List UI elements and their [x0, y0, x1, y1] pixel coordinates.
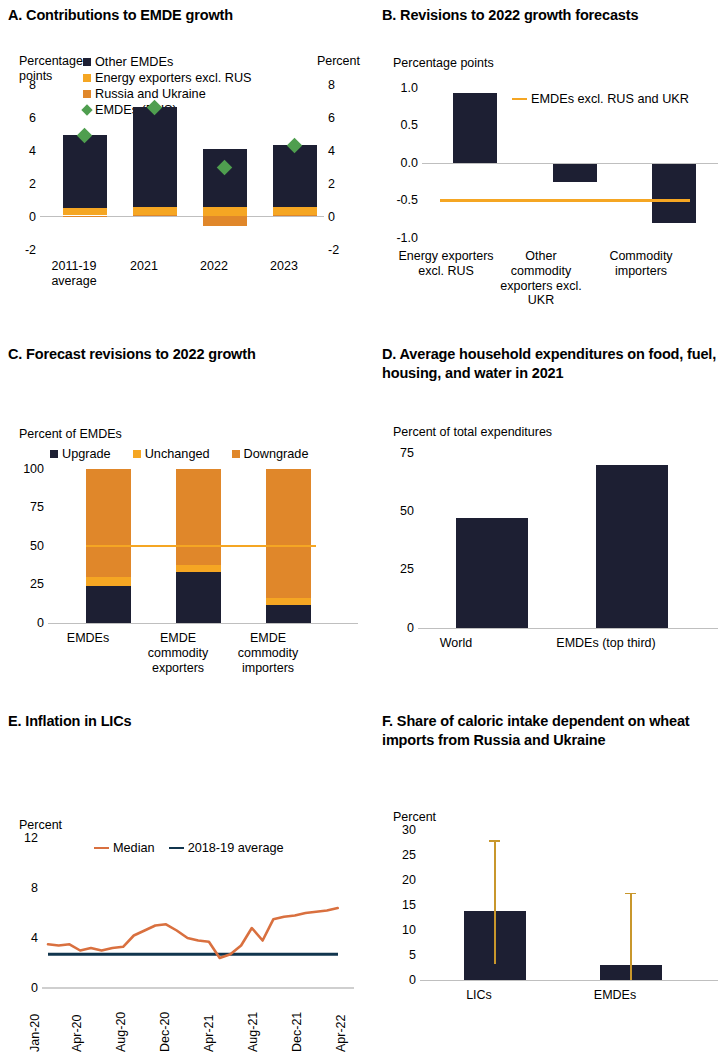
- panel-b-ytick: 1.0: [382, 81, 418, 95]
- panel-e-xtick: Apr-21: [202, 1014, 216, 1052]
- bar-segment-energy-exporters: [63, 208, 107, 215]
- error-bar-lics: [494, 840, 496, 964]
- panel-b-ytick: -1.0: [382, 231, 418, 245]
- panel-c-title: C. Forecast revisions to 2022 growth: [8, 345, 358, 364]
- panel-f-ytick: 15: [382, 898, 416, 912]
- panel-d: D. Average household expenditures on foo…: [382, 345, 718, 675]
- panel-a-axis-unit-right: Percent: [290, 54, 360, 69]
- legend-item-other-emdes: Other EMDEs: [83, 54, 252, 70]
- panel-e-ytick: 8: [8, 881, 38, 895]
- panel-d-ytick: 0: [382, 621, 414, 635]
- panel-a-ytick: -2: [8, 243, 36, 257]
- panel-d-xtick: World: [424, 636, 488, 651]
- panel-f-xtick: LICs: [434, 988, 524, 1003]
- panel-d-ytick: 25: [382, 562, 414, 576]
- panel-a-ytick-right: 0: [328, 210, 356, 224]
- legend-label: Unchanged: [145, 446, 210, 462]
- panel-b: B. Revisions to 2022 growth forecasts Pe…: [382, 6, 718, 326]
- bar-segment-other-emdes: [273, 145, 317, 207]
- panel-e-xtick: Dec-21: [290, 1012, 304, 1052]
- bar-segment-upgrade: [176, 572, 221, 623]
- panel-e-lines: [42, 838, 354, 990]
- panel-a-ytick: 6: [8, 111, 36, 125]
- panel-f-ytick: 5: [382, 948, 416, 962]
- panel-f-ytick: 10: [382, 923, 416, 937]
- error-bar-cap-top: [489, 840, 500, 842]
- panel-d-axis-unit: Percent of total expenditures: [393, 425, 643, 440]
- bar-other-commodity-exporters: [553, 164, 597, 181]
- legend-swatch-icon: [83, 58, 91, 66]
- panel-a-xtick: 2021: [105, 259, 183, 274]
- panel-c-ytick: 25: [8, 577, 44, 591]
- panel-e-ytick: 12: [8, 831, 38, 845]
- legend-swatch-icon: [50, 450, 58, 458]
- panel-e-xtick: Apr-22: [334, 1014, 348, 1052]
- panel-a-ytick: 4: [8, 144, 36, 158]
- panel-b-ytick: 0.5: [382, 118, 418, 132]
- bar-energy-exporters: [453, 93, 497, 163]
- bar-segment-energy-exporters: [133, 207, 177, 215]
- legend-label: Other EMDEs: [95, 54, 173, 70]
- bar-segment-energy-exporters: [273, 207, 317, 215]
- bar-segment-russia-ukraine: [203, 216, 247, 226]
- panel-b-ytick: -0.5: [382, 193, 418, 207]
- panel-e-xtick: Aug-21: [246, 1012, 260, 1052]
- legend-item-unchanged: Unchanged: [133, 446, 210, 462]
- panel-e-plot: [42, 838, 354, 990]
- panel-c-xtick: EMDEs: [48, 631, 128, 646]
- panel-c-ytick: 0: [8, 616, 44, 630]
- panel-a-ytick: 2: [8, 177, 36, 191]
- panel-d-xtick: EMDEs (top third): [542, 636, 670, 651]
- panel-f: F. Share of caloric intake dependent on …: [382, 712, 718, 1051]
- panel-c-reference-line: [86, 545, 316, 547]
- panel-d-ytick: 75: [382, 446, 414, 460]
- bar-segment-other-emdes: [63, 135, 107, 208]
- panel-f-title: F. Share of caloric intake dependent on …: [382, 712, 718, 749]
- panel-f-baseline: [420, 980, 718, 981]
- panel-e-ytick: 0: [8, 981, 38, 995]
- bar-segment-downgrade: [86, 469, 131, 577]
- panel-f-plot: [420, 830, 718, 984]
- bar-segment-unchanged: [176, 565, 221, 573]
- bar-segment-russia-ukraine: [63, 216, 107, 217]
- bar-segment-russia-ukraine: [133, 215, 177, 216]
- panel-c-axis-unit: Percent of EMDEs: [19, 427, 199, 442]
- panel-d-baseline: [418, 628, 718, 629]
- panel-a-plot: [40, 84, 324, 254]
- panel-c-xtick: EMDE commodity importers: [228, 631, 308, 675]
- panel-e-xtick: Aug-20: [114, 1012, 128, 1052]
- error-bar-cap-top: [625, 893, 636, 895]
- panel-a-xtick: 2023: [245, 259, 323, 274]
- bar-world: [456, 518, 528, 628]
- panel-b-axis-unit: Percentage points: [393, 56, 553, 71]
- panel-a-ytick-right: 2: [328, 177, 356, 191]
- bar-segment-other-emdes: [203, 149, 247, 207]
- panel-f-xtick: EMDEs: [570, 988, 660, 1003]
- panel-b-xtick: Other commodity exporters excl. UKR: [496, 249, 586, 308]
- panel-c-plot: [48, 469, 358, 625]
- panel-c-ytick: 75: [8, 500, 44, 514]
- bar-segment-upgrade: [266, 605, 311, 623]
- legend-swatch-icon: [83, 74, 91, 82]
- panel-e-title: E. Inflation in LICs: [8, 712, 358, 731]
- panel-e-xtick: Jan-20: [28, 1014, 42, 1052]
- panel-a-ytick-right: 6: [328, 111, 356, 125]
- panel-a-title: A. Contributions to EMDE growth: [8, 6, 358, 25]
- legend-item-upgrade: Upgrade: [50, 446, 111, 462]
- panel-a: A. Contributions to EMDE growth Percenta…: [8, 6, 360, 326]
- legend-swatch-icon: [133, 450, 141, 458]
- panel-d-ytick: 50: [382, 504, 414, 518]
- panel-b-xtick: Energy exporters excl. RUS: [390, 249, 502, 279]
- panel-b-ytick: 0.0: [382, 156, 418, 170]
- panel-f-ytick: 20: [382, 873, 416, 887]
- panel-c-legend: Upgrade Unchanged Downgrade: [50, 446, 308, 462]
- bar-segment-unchanged: [86, 577, 131, 586]
- bar-segment-upgrade: [86, 586, 131, 623]
- panel-a-ytick-right: 4: [328, 144, 356, 158]
- panel-b-xtick: Commodity importers: [590, 249, 692, 279]
- bar-emdes-top-third: [596, 465, 668, 628]
- legend-item-downgrade: Downgrade: [232, 446, 309, 462]
- panel-a-ytick: 8: [8, 78, 36, 92]
- panel-e-xtick: Dec-20: [158, 1012, 172, 1052]
